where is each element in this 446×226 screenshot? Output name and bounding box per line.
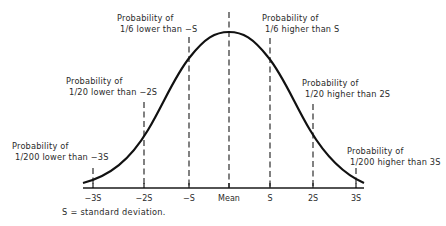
tick-label-plus-s: S <box>267 194 272 203</box>
annotation-line2: 1/20 lower than −2S <box>66 87 157 98</box>
tick-label-minus-2s: −2S <box>136 194 153 203</box>
annotation-minus-2s: Probability of 1/20 lower than −2S <box>66 76 157 98</box>
normal-distribution-diagram <box>0 0 446 226</box>
annotation-line1: Probability of <box>347 146 441 157</box>
tick-label-plus-3s: 3S <box>351 194 361 203</box>
annotation-line1: Probability of <box>66 76 157 87</box>
annotation-line1: Probability of <box>117 13 197 24</box>
annotation-minus-3s: Probability of 1/200 lower than −3S <box>12 141 109 163</box>
footnote: S = standard deviation. <box>62 207 166 217</box>
annotation-line2: 1/200 higher than 3S <box>347 157 441 168</box>
tick-label-mean: Mean <box>218 194 240 203</box>
annotation-minus-s: Probability of 1/6 lower than −S <box>117 13 197 35</box>
tick-label-minus-3s: −3S <box>85 194 102 203</box>
tick-label-plus-2s: 2S <box>308 194 318 203</box>
annotation-line2: 1/6 lower than −S <box>117 24 197 35</box>
annotation-plus-2s: Probability of 1/20 higher than 2S <box>302 78 390 100</box>
annotation-line2: 1/20 higher than 2S <box>302 89 390 100</box>
axis-ticks <box>93 183 356 188</box>
annotation-plus-s: Probability of 1/6 higher than S <box>262 13 339 35</box>
annotation-line1: Probability of <box>262 13 339 24</box>
tick-label-minus-s: −S <box>183 194 195 203</box>
annotation-plus-3s: Probability of 1/200 higher than 3S <box>347 146 441 168</box>
annotation-line1: Probability of <box>302 78 390 89</box>
annotation-line2: 1/200 lower than −3S <box>12 152 109 163</box>
sd-dashed-lines <box>93 12 356 188</box>
annotation-line2: 1/6 higher than S <box>262 24 339 35</box>
annotation-line1: Probability of <box>12 141 109 152</box>
bell-curve <box>83 32 364 183</box>
